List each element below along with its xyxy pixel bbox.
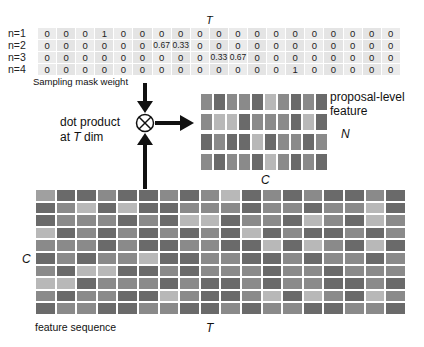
proposal-feature-cell bbox=[238, 152, 251, 172]
proposal-n-axis-label: N bbox=[341, 127, 350, 141]
feature-sequence-cell bbox=[117, 277, 138, 290]
mask-cell: 0.67 bbox=[229, 52, 248, 63]
feature-sequence-cell bbox=[76, 214, 97, 227]
feature-sequence-cell bbox=[97, 202, 118, 215]
operation-label: dot product at T dim bbox=[60, 115, 120, 145]
feature-sequence-cell bbox=[241, 214, 262, 227]
mask-cell: 0 bbox=[133, 28, 152, 39]
feature-sequence-cell bbox=[159, 189, 180, 202]
feature-sequence-cell bbox=[179, 227, 200, 240]
proposal-feature-cell bbox=[315, 132, 328, 152]
feature-sequence-cell bbox=[76, 290, 97, 303]
mask-cell: 0 bbox=[38, 28, 57, 39]
proposal-feature-grid bbox=[200, 92, 328, 172]
sampling-mask-table: n=10001000000000000000n=20000000.670.330… bbox=[8, 27, 401, 75]
mask-cell: 0 bbox=[324, 40, 343, 51]
feature-sequence-cell bbox=[282, 290, 303, 303]
proposal-feature-cell bbox=[251, 92, 264, 112]
proposal-feature-cell bbox=[226, 112, 239, 132]
mask-cell: 0.33 bbox=[172, 40, 191, 51]
proposal-feature-cell bbox=[302, 132, 315, 152]
feature-sequence-cell bbox=[159, 302, 180, 315]
feature-sequence-cell bbox=[282, 252, 303, 265]
feature-sequence-cell bbox=[365, 277, 386, 290]
mask-cell: 0 bbox=[76, 52, 95, 63]
feature-sequence-cell bbox=[344, 290, 365, 303]
mask-cell: 0 bbox=[229, 64, 248, 75]
proposal-feature-cell bbox=[213, 132, 226, 152]
mask-cell: 0 bbox=[191, 52, 210, 63]
feature-sequence-cell bbox=[200, 214, 221, 227]
mask-cell: 0 bbox=[133, 64, 152, 75]
proposal-feature-cell bbox=[290, 152, 303, 172]
proposal-feature-cell bbox=[251, 152, 264, 172]
proposal-feature-cell bbox=[226, 132, 239, 152]
mask-cell: 0 bbox=[95, 40, 114, 51]
feature-sequence-cell bbox=[179, 290, 200, 303]
mask-cell: 0 bbox=[344, 28, 363, 39]
mask-cell: 0 bbox=[153, 64, 172, 75]
feature-sequence-cell bbox=[138, 189, 159, 202]
feature-sequence-cell bbox=[262, 214, 283, 227]
feature-sequence-cell bbox=[97, 265, 118, 278]
feature-sequence-cell bbox=[262, 265, 283, 278]
feature-sequence-cell bbox=[303, 239, 324, 252]
mask-row-label: n=3 bbox=[8, 51, 38, 63]
proposal-feature-cell bbox=[302, 112, 315, 132]
feature-sequence-cell bbox=[200, 277, 221, 290]
proposal-feature-cell bbox=[264, 152, 277, 172]
feature-sequence-cell bbox=[220, 252, 241, 265]
dot-product-operator-icon bbox=[135, 113, 155, 133]
mask-cell: 0 bbox=[153, 28, 172, 39]
feature-sequence-cell bbox=[56, 214, 77, 227]
feature-sequence-cell bbox=[282, 265, 303, 278]
proposal-feature-cell bbox=[213, 92, 226, 112]
feature-sequence-cell bbox=[303, 302, 324, 315]
feature-sequence-cell bbox=[117, 252, 138, 265]
mask-cell: 0 bbox=[248, 28, 267, 39]
proposal-feature-cell bbox=[315, 112, 328, 132]
mask-cell: 0 bbox=[38, 64, 57, 75]
feature-sequence-cell bbox=[159, 214, 180, 227]
feature-sequence-cell bbox=[138, 227, 159, 240]
mask-cell: 0 bbox=[382, 28, 401, 39]
mask-cell: 0 bbox=[286, 52, 305, 63]
feature-sequence-cell bbox=[117, 302, 138, 315]
feature-sequence-cell bbox=[35, 202, 56, 215]
feature-sequence-cell bbox=[159, 252, 180, 265]
feature-sequence-cell bbox=[76, 265, 97, 278]
feature-sequence-cell bbox=[282, 214, 303, 227]
feature-sequence-cell bbox=[117, 265, 138, 278]
mask-cell: 0 bbox=[267, 52, 286, 63]
feature-sequence-cell bbox=[282, 302, 303, 315]
proposal-feature-cell bbox=[213, 112, 226, 132]
feature-sequence-cell bbox=[241, 265, 262, 278]
mask-row-label: n=1 bbox=[8, 27, 38, 39]
mask-cell: 0 bbox=[172, 64, 191, 75]
feature-sequence-cell bbox=[282, 189, 303, 202]
feature-sequence-cell bbox=[56, 202, 77, 215]
proposal-feature-cell bbox=[277, 112, 290, 132]
proposal-feature-cell bbox=[277, 152, 290, 172]
feature-sequence-cell bbox=[97, 214, 118, 227]
feature-sequence-cell bbox=[303, 227, 324, 240]
mask-t-axis-label: T bbox=[206, 14, 213, 26]
feature-sequence-cell bbox=[56, 189, 77, 202]
mask-cell: 0 bbox=[95, 64, 114, 75]
proposal-feature-cell bbox=[200, 132, 213, 152]
mask-cell: 0 bbox=[324, 52, 343, 63]
mask-cell: 0 bbox=[210, 40, 229, 51]
mask-cell: 0 bbox=[344, 40, 363, 51]
feature-sequence-cell bbox=[241, 277, 262, 290]
mask-cell: 0 bbox=[267, 64, 286, 75]
feature-sequence-cell bbox=[303, 214, 324, 227]
feature-sequence-cell bbox=[200, 290, 221, 303]
feature-sequence-cell bbox=[76, 277, 97, 290]
proposal-feature-cell bbox=[238, 112, 251, 132]
feature-sequence-cell bbox=[282, 277, 303, 290]
mask-cell: 0 bbox=[57, 52, 76, 63]
proposal-feature-cell bbox=[200, 92, 213, 112]
mask-cell: 0 bbox=[210, 28, 229, 39]
feature-sequence-caption: feature sequence bbox=[35, 321, 116, 333]
feature-sequence-cell bbox=[385, 227, 406, 240]
